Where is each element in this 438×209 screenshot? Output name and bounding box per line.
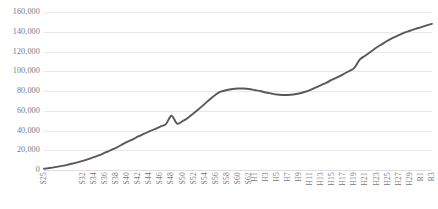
x-axis-tick-label: S60 (234, 172, 242, 184)
x-axis-tick-label: S32 (79, 172, 87, 184)
x-axis-tick-label: H7 (284, 172, 292, 182)
x-axis-tick-label: R3 (428, 172, 436, 181)
y-axis-tick-label: 60,000 (17, 107, 40, 115)
x-axis-tick-label: S54 (201, 172, 209, 184)
x-axis-tick-label: S36 (101, 172, 109, 184)
y-axis-tick-label: 20,000 (17, 146, 40, 154)
gridline (44, 170, 432, 171)
x-axis-tick-label: H3 (262, 172, 270, 182)
x-axis-tick-label: S25 (40, 172, 48, 184)
x-axis: S25S32S34S36S38S40S42S44S46S48S50S52S54S… (44, 172, 432, 209)
y-axis: 020,00040,00060,00080,000100,000120,0001… (0, 12, 40, 170)
x-axis-tick-label: H23 (373, 172, 381, 186)
x-axis-tick-label: H29 (406, 172, 414, 186)
x-axis-tick-label: S46 (157, 172, 165, 184)
x-axis-tick-label: S34 (90, 172, 98, 184)
x-axis-tick-label: H27 (395, 172, 403, 186)
x-axis-tick-label: S58 (223, 172, 231, 184)
x-axis-tick-label: S42 (134, 172, 142, 184)
x-axis-tick-label: H25 (384, 172, 392, 186)
x-axis-tick-label: S56 (212, 172, 220, 184)
plot-area (44, 12, 432, 170)
x-axis-tick-label: S48 (168, 172, 176, 184)
x-axis-tick-label: H15 (328, 172, 336, 186)
y-axis-tick-label: 80,000 (17, 87, 40, 95)
x-axis-tick-label: S50 (179, 172, 187, 184)
line-chart: 020,00040,00060,00080,000100,000120,0001… (0, 0, 438, 209)
y-axis-tick-label: 100,000 (13, 67, 40, 75)
series-line-group (44, 12, 432, 170)
y-axis-tick-label: 160,000 (13, 8, 40, 16)
x-axis-tick-label: H17 (340, 172, 348, 186)
x-axis-tick-label: H11 (306, 172, 314, 185)
x-axis-tick-label: H9 (295, 172, 303, 182)
y-axis-tick-label: 140,000 (13, 28, 40, 36)
x-axis-tick-label: H1 (251, 172, 259, 182)
y-axis-tick-label: 120,000 (13, 47, 40, 55)
x-axis-tick-label: S38 (112, 172, 120, 184)
x-axis-tick-label: H21 (362, 172, 370, 186)
x-axis-tick-label: S44 (146, 172, 154, 184)
y-axis-tick-label: 40,000 (17, 126, 40, 134)
x-axis-tick-label: H13 (317, 172, 325, 186)
x-axis-tick-label: H5 (273, 172, 281, 182)
x-axis-tick-label: S40 (123, 172, 131, 184)
x-axis-tick-label: H19 (351, 172, 359, 186)
x-axis-tick-label: S52 (190, 172, 198, 184)
x-axis-tick-label: R1 (417, 172, 425, 181)
series-line (44, 24, 432, 169)
